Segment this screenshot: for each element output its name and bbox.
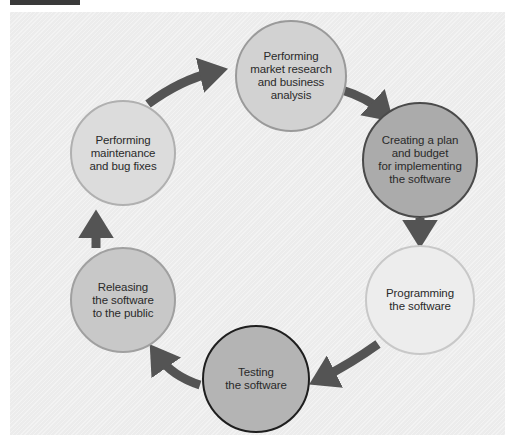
step-label: Programming the software <box>386 287 454 313</box>
step-label: Performing maintenance and bug fixes <box>89 134 156 173</box>
step-plan-budget: Creating a plan and budget for implement… <box>362 102 478 218</box>
arrow-research-to-plan <box>342 90 383 112</box>
step-label: Creating a plan and budget for implement… <box>378 134 461 186</box>
step-programming: Programming the software <box>365 245 475 355</box>
step-testing: Testing the software <box>202 325 310 433</box>
step-releasing: Releasing the software to the public <box>70 247 176 353</box>
step-label: Releasing the software to the public <box>92 281 153 320</box>
step-maintenance: Performing maintenance and bug fixes <box>70 100 176 206</box>
step-label: Performing market research and business … <box>250 50 332 102</box>
step-label: Testing the software <box>225 366 286 392</box>
arrow-programming-to-testing <box>322 344 378 378</box>
arrow-testing-to-releasing <box>158 356 200 385</box>
arrow-maintenance-to-research <box>148 72 214 104</box>
step-market-research: Performing market research and business … <box>235 20 347 132</box>
